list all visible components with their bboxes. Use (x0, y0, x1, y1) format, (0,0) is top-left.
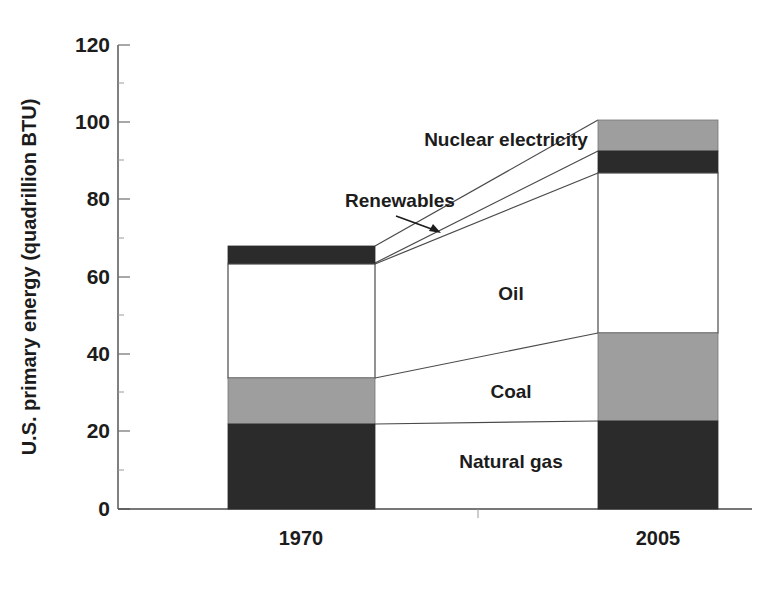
y-tick-label-80: 80 (87, 187, 110, 210)
segment-1970-renewables[interactable] (228, 246, 375, 264)
y-tick-label-0: 0 (98, 497, 110, 520)
annotations: Nuclear electricity Renewables Oil Coal … (345, 129, 588, 472)
segment-2005-natural-gas[interactable] (598, 421, 718, 509)
y-tick-label-100: 100 (75, 110, 110, 133)
y-axis-title: U.S. primary energy (quadrillion BTU) (18, 99, 40, 456)
x-category-label-2005: 2005 (636, 527, 681, 549)
y-axis: 120 100 80 60 40 20 0 U.S. primary energ… (18, 33, 130, 520)
connector-bands (375, 120, 598, 424)
y-tick-label-40: 40 (87, 342, 110, 365)
y-tick-label-20: 20 (87, 419, 110, 442)
connector-oil-base (375, 333, 598, 378)
segment-2005-coal[interactable] (598, 333, 718, 421)
segment-2005-oil[interactable] (598, 173, 718, 333)
segment-1970-oil[interactable] (228, 264, 375, 378)
bar-1970[interactable] (228, 246, 375, 509)
bar-2005[interactable] (598, 120, 718, 509)
connector-renewables-base (375, 173, 598, 264)
segment-2005-nuclear[interactable] (598, 120, 718, 151)
label-oil: Oil (498, 283, 523, 304)
segment-1970-natural-gas[interactable] (228, 424, 375, 509)
chart-container: 120 100 80 60 40 20 0 U.S. primary energ… (0, 0, 771, 590)
segment-1970-coal[interactable] (228, 378, 375, 424)
renewables-arrow-head (429, 224, 441, 233)
label-nuclear-electricity: Nuclear electricity (424, 129, 588, 150)
segment-2005-renewables[interactable] (598, 151, 718, 173)
y-tick-label-120: 120 (75, 33, 110, 56)
label-natural-gas: Natural gas (459, 451, 562, 472)
x-category-label-1970: 1970 (279, 527, 324, 549)
label-coal: Coal (490, 381, 531, 402)
label-renewables: Renewables (345, 190, 455, 211)
y-tick-label-60: 60 (87, 265, 110, 288)
stacked-bar-chart: 120 100 80 60 40 20 0 U.S. primary energ… (0, 0, 771, 590)
x-axis: 1970 2005 (118, 509, 752, 549)
connector-coal-base (375, 421, 598, 424)
